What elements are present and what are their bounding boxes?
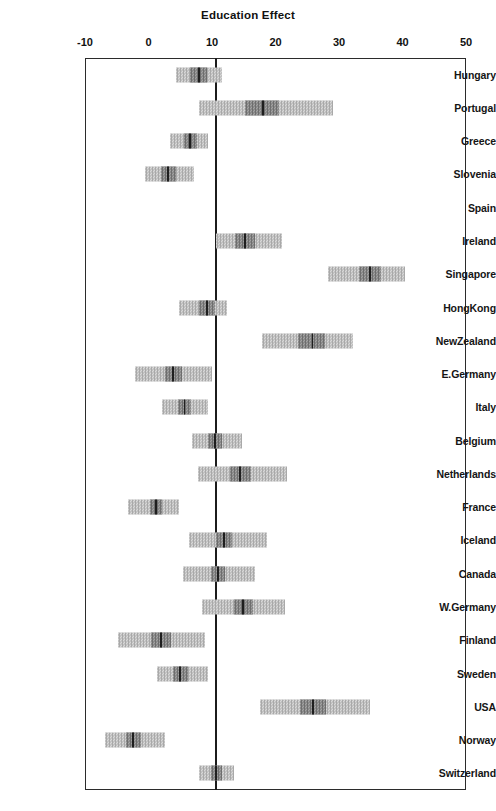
- interval-bar-netherlands: [198, 466, 287, 481]
- interval-bar-iceland: [189, 533, 267, 548]
- category-label-spain: Spain: [421, 202, 496, 214]
- interval-bar-hungary: [176, 67, 221, 82]
- interval-bar-w-germany: [202, 600, 285, 615]
- interval-bar-usa: [260, 699, 370, 714]
- category-label-greece: Greece: [421, 135, 496, 147]
- interval-bar-e-germany: [135, 367, 212, 382]
- category-label-france: France: [421, 501, 496, 513]
- category-label-newzealand: NewZealand: [421, 335, 496, 347]
- interval-bar-portugal: [199, 100, 332, 115]
- category-label-canada: Canada: [421, 568, 496, 580]
- education-effect-chart: Education Effect -1001020304050 HungaryP…: [0, 0, 496, 811]
- category-label-ireland: Ireland: [421, 235, 496, 247]
- point-estimate-marker: [244, 234, 246, 249]
- plot-area-frame: [85, 58, 466, 790]
- x-tick-50: 50: [460, 36, 472, 48]
- x-tick-10: 10: [206, 36, 218, 48]
- category-label-singapore: Singapore: [421, 268, 496, 280]
- x-tick-0: 0: [145, 36, 151, 48]
- point-estimate-marker: [160, 633, 162, 648]
- point-estimate-marker: [217, 566, 219, 581]
- point-estimate-marker: [242, 600, 244, 615]
- category-label-netherlands: Netherlands: [421, 468, 496, 480]
- interval-bar-france: [128, 500, 179, 515]
- category-label-hungary: Hungary: [421, 69, 496, 81]
- point-estimate-marker: [223, 533, 225, 548]
- interval-bar-finland: [118, 633, 205, 648]
- point-estimate-marker: [179, 666, 181, 681]
- interval-bar-hongkong: [179, 300, 227, 315]
- point-estimate-marker: [312, 333, 314, 348]
- x-tick-30: 30: [333, 36, 345, 48]
- point-estimate-marker: [172, 367, 174, 382]
- point-estimate-marker: [198, 67, 200, 82]
- point-estimate-marker: [214, 433, 216, 448]
- point-estimate-marker: [132, 733, 134, 748]
- x-tick--10: -10: [77, 36, 93, 48]
- interval-bar-greece: [170, 134, 208, 149]
- point-estimate-marker: [206, 300, 208, 315]
- interval-bar-singapore: [328, 267, 405, 282]
- point-estimate-marker: [167, 167, 169, 182]
- category-label-finland: Finland: [421, 634, 496, 646]
- point-estimate-marker: [155, 500, 157, 515]
- category-label-norway: Norway: [421, 734, 496, 746]
- category-label-hongkong: HongKong: [421, 302, 496, 314]
- interval-bar-canada: [183, 566, 255, 581]
- interval-bar-belgium: [192, 433, 242, 448]
- category-label-sweden: Sweden: [421, 668, 496, 680]
- interval-bar-ireland: [216, 234, 282, 249]
- category-label-iceland: Iceland: [421, 534, 496, 546]
- point-estimate-marker: [239, 466, 241, 481]
- category-label-switzerland: Switzerland: [421, 767, 496, 779]
- x-axis-tick-labels: -1001020304050: [0, 36, 496, 52]
- point-estimate-marker: [262, 100, 264, 115]
- category-label-e-germany: E.Germany: [421, 368, 496, 380]
- category-label-w-germany: W.Germany: [421, 601, 496, 613]
- point-estimate-marker: [189, 134, 191, 149]
- category-label-usa: USA: [421, 701, 496, 713]
- category-label-portugal: Portugal: [421, 102, 496, 114]
- interval-bar-slovenia: [145, 167, 194, 182]
- category-label-italy: Italy: [421, 401, 496, 413]
- category-label-belgium: Belgium: [421, 435, 496, 447]
- x-tick-40: 40: [396, 36, 408, 48]
- point-estimate-marker: [184, 400, 186, 415]
- interval-bar-italy: [162, 400, 208, 415]
- x-tick-20: 20: [269, 36, 281, 48]
- point-estimate-marker: [215, 766, 217, 781]
- reference-line: [215, 58, 218, 790]
- interval-bar-norway: [105, 733, 165, 748]
- point-estimate-marker: [312, 699, 314, 714]
- point-estimate-marker: [369, 267, 371, 282]
- category-label-slovenia: Slovenia: [421, 168, 496, 180]
- chart-title: Education Effect: [0, 9, 496, 21]
- interval-bar-switzerland: [199, 766, 233, 781]
- interval-bar-newzealand: [262, 333, 353, 348]
- interval-bar-sweden: [157, 666, 208, 681]
